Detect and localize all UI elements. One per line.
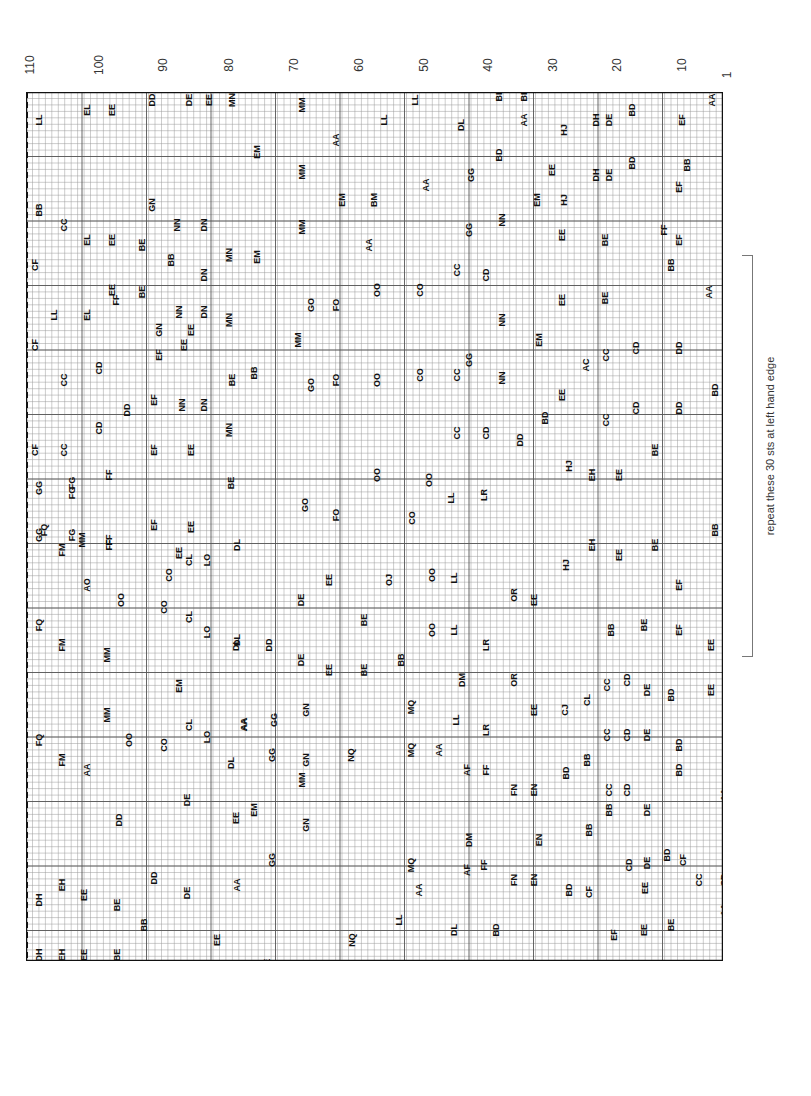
region-label: DM	[464, 833, 474, 847]
region-label: CF	[584, 886, 594, 898]
region-label: EF	[149, 394, 159, 406]
region-label: FQ	[34, 619, 44, 632]
region-label: NQ	[347, 933, 357, 947]
region-label: AA	[82, 763, 92, 776]
region-label: AA	[414, 883, 424, 896]
region-label: AA	[239, 718, 249, 731]
region-label: AA	[232, 878, 242, 891]
region-label: MM	[297, 165, 307, 180]
region-label: EH	[587, 469, 597, 482]
region-label: NN	[497, 372, 507, 385]
region-label: MM	[297, 98, 307, 113]
region-label: BB	[166, 253, 176, 266]
knitting-chart-grid: LLBBCCELEEDDGNDEEEMNNNDNMNELEEBEBBDNCFBE…	[26, 92, 723, 961]
region-label: CD	[481, 268, 491, 281]
region-label: CC	[59, 218, 69, 231]
region-label: HJ	[564, 460, 574, 472]
region-label: FG	[67, 487, 77, 500]
region-label: FF	[479, 859, 489, 870]
region-label: LR	[479, 489, 489, 501]
region-label: EE	[324, 664, 334, 676]
region-label: EF	[674, 181, 684, 193]
region-label: EE	[557, 229, 567, 241]
region-label: OO	[372, 373, 382, 387]
region-label: CC	[601, 348, 611, 361]
region-label: BE	[112, 899, 122, 912]
region-label: FO	[331, 374, 341, 387]
region-label: CC	[694, 873, 704, 886]
region-label: BD	[564, 883, 574, 896]
region-label: GO	[300, 498, 310, 512]
region-label: OO	[372, 468, 382, 482]
region-label: MN	[224, 423, 234, 437]
region-label: FM	[57, 754, 67, 767]
region-label: MQ	[406, 700, 416, 715]
region-label: CD	[624, 858, 634, 871]
region-label: CC	[602, 678, 612, 691]
region-label: BB	[519, 92, 529, 102]
region-label: EE	[324, 574, 334, 586]
repeat-note: repeat these 30 sts at left hand edge	[760, 255, 774, 655]
region-label: EE	[231, 812, 241, 824]
region-label: EN	[534, 834, 544, 847]
region-label: GN	[301, 703, 311, 717]
region-label: OO	[372, 283, 382, 297]
region-label: EN	[529, 874, 539, 887]
region-label: BD	[627, 156, 637, 169]
region-label: CD	[631, 401, 641, 414]
region-label: EF	[674, 624, 684, 636]
region-label: EF	[609, 929, 619, 941]
region-label: DE	[296, 594, 306, 607]
region-label: EH	[57, 879, 67, 892]
region-label: CO	[415, 283, 425, 297]
region-label: GG	[267, 748, 277, 762]
region-label: FQ	[39, 524, 49, 537]
region-label: BD	[666, 688, 676, 701]
region-label: CC	[59, 373, 69, 386]
region-label: FF	[104, 534, 114, 545]
region-label: BB	[666, 258, 676, 271]
region-label: BE	[359, 614, 369, 627]
region-label: DL	[226, 757, 236, 769]
region-label: BE	[112, 949, 122, 961]
region-label: OR	[509, 588, 519, 602]
region-label: GN	[301, 753, 311, 767]
region-label: DL	[231, 639, 241, 651]
region-label: AF	[462, 864, 472, 876]
region-label: EE	[547, 164, 557, 176]
region-label: MM	[293, 333, 303, 348]
region-label: CF	[30, 259, 40, 271]
region-label: EE	[557, 389, 567, 401]
region-label: AA	[707, 93, 717, 106]
region-label: BD	[674, 763, 684, 776]
region-label: BD	[540, 411, 550, 424]
region-label: DN	[199, 399, 209, 412]
row-tick-100: 100	[92, 50, 106, 80]
region-label: GG	[466, 168, 476, 182]
region-label: AA	[421, 178, 431, 191]
region-label: CC	[602, 728, 612, 741]
region-label: DD	[674, 401, 684, 414]
region-label: EE	[212, 934, 222, 946]
region-label: CC	[601, 413, 611, 426]
region-label: EE	[557, 294, 567, 306]
region-label: BB	[604, 803, 614, 816]
region-label: DE	[642, 729, 652, 742]
region-label: EF	[149, 444, 159, 456]
region-label: FO	[331, 509, 341, 522]
region-label: AA	[719, 788, 723, 801]
repeat-bracket	[742, 255, 753, 657]
region-label: EE	[79, 949, 89, 961]
region-label: NN	[174, 306, 184, 319]
region-label: EE	[529, 594, 539, 606]
region-label: CJ	[560, 704, 570, 716]
region-label: NQ	[346, 748, 356, 762]
region-label: AF	[462, 764, 472, 776]
region-label: BD	[561, 766, 571, 779]
region-label: BM	[369, 193, 379, 207]
region-label: GO	[306, 378, 316, 392]
region-label: LL	[449, 572, 459, 583]
region-label: LO	[202, 731, 212, 744]
region-label: FF	[659, 224, 669, 235]
region-label: BD	[494, 148, 504, 161]
